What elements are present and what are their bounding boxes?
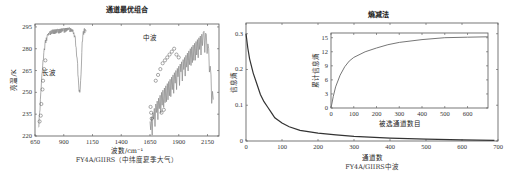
left-y-tick-label: 280 xyxy=(22,45,32,52)
left-y-tick-label: 235 xyxy=(22,110,32,117)
annotation-midwave: 中波 xyxy=(143,33,157,42)
left-y-tick-label: 220 xyxy=(22,132,32,139)
left-y-ticks: 220235250265280295 xyxy=(22,23,219,139)
left-caption: FY4A/GIIRS（中纬度夏季大气） xyxy=(76,155,179,164)
selected-channel-marker xyxy=(41,79,44,82)
inset-y-tick-label: 15 xyxy=(322,34,329,41)
selected-channel-marker xyxy=(173,47,176,50)
right-y-tick-label: 0.3 xyxy=(235,30,243,37)
selected-channel-marker xyxy=(154,79,157,82)
midwave-spectrum-line xyxy=(150,31,213,135)
left-plot-frame xyxy=(35,24,219,136)
inset-x-tick-label: 0 xyxy=(329,110,332,117)
selected-channel-marker xyxy=(159,67,162,70)
right-chart-title: 熵减法 xyxy=(367,10,389,19)
left-chart-title: 通道最优组合 xyxy=(106,5,149,14)
right-x-tick-label: 100 xyxy=(277,143,287,150)
left-x-tick-label: 1900 xyxy=(172,138,185,145)
inset-x-tick-label: 600 xyxy=(463,110,473,117)
inset-x-tick-label: 500 xyxy=(440,110,450,117)
right-x-tick-label: 700 xyxy=(493,143,503,150)
inset-x-tick-label: 100 xyxy=(349,110,359,117)
figure: 通道最优组合 65090011501400165019002150 220235… xyxy=(0,0,514,177)
right-y-tick-label: 0.2 xyxy=(235,65,243,72)
selected-channel-marker xyxy=(170,50,173,53)
inset-y-tick-label: 12 xyxy=(322,48,329,55)
selected-channel-marker xyxy=(168,53,171,56)
left-y-tick-label: 265 xyxy=(22,67,32,74)
right-y-axis-label: 信息熵 xyxy=(229,72,238,93)
right-y-tick-label: 0.1 xyxy=(235,101,243,108)
longwave-spectrum-line xyxy=(39,28,87,128)
left-x-tick-label: 2150 xyxy=(201,138,214,145)
selected-channel-marker xyxy=(162,108,165,111)
inset-y-tick-label: 9 xyxy=(325,62,328,69)
left-series-group xyxy=(38,28,213,136)
selected-channel-marker xyxy=(177,56,180,59)
left-x-tick-label: 900 xyxy=(59,138,69,145)
selected-channel-marker xyxy=(156,73,159,76)
left-x-tick-label: 650 xyxy=(30,138,40,145)
selected-channel-marker xyxy=(163,59,166,62)
right-x-axis-label: 通道数 xyxy=(362,153,383,162)
right-x-tick-label: 300 xyxy=(349,143,359,150)
inset-x-axis-label: 被选通道数目 xyxy=(379,119,421,128)
inset-frame xyxy=(331,33,488,108)
left-chart-optimal-channel-combination: 通道最优组合 65090011501400165019002150 220235… xyxy=(9,5,219,164)
selected-channel-marker xyxy=(166,56,169,59)
selected-channel-marker xyxy=(44,59,47,62)
left-x-tick-label: 1150 xyxy=(86,138,99,145)
right-x-tick-label: 600 xyxy=(457,143,467,150)
left-y-axis-label: 亮温/K xyxy=(9,69,18,90)
left-x-tick-label: 1400 xyxy=(115,138,128,145)
right-x-tick-label: 200 xyxy=(313,143,323,150)
selected-channel-marker xyxy=(149,105,152,108)
inset-cumulative-entropy: 0100200300400500600 03691215 累计信息熵 被选通道数… xyxy=(311,33,488,128)
annotation-longwave: 长波 xyxy=(42,68,56,77)
right-caption: FY4A/GIIRS中波 xyxy=(345,162,399,171)
right-x-tick-label: 500 xyxy=(421,143,431,150)
inset-x-tick-label: 300 xyxy=(394,110,404,117)
right-x-tick-label: 0 xyxy=(244,143,247,150)
left-y-tick-label: 250 xyxy=(22,88,32,95)
left-x-tick-label: 1650 xyxy=(144,138,157,145)
right-y-tick-label: 0 xyxy=(240,137,243,144)
selected-channel-marker xyxy=(175,53,178,56)
inset-x-tick-label: 200 xyxy=(372,110,382,117)
left-x-axis-label: 波数/cm⁻¹ xyxy=(111,146,143,155)
right-chart-entropy-reduction: 熵减法 0100200300400500600700 00.10.20.3 信息… xyxy=(229,10,503,171)
inset-y-tick-label: 0 xyxy=(325,104,328,111)
inset-x-tick-label: 400 xyxy=(417,110,427,117)
right-x-tick-label: 400 xyxy=(385,143,395,150)
left-y-tick-label: 295 xyxy=(22,23,32,30)
selected-channel-marker xyxy=(160,111,163,114)
inset-y-tick-label: 6 xyxy=(325,76,329,83)
left-x-ticks: 65090011501400165019002150 xyxy=(30,24,214,145)
selected-channel-marker xyxy=(38,120,41,123)
selected-channel-marker xyxy=(161,62,164,65)
inset-y-tick-label: 3 xyxy=(325,90,328,97)
inset-y-axis-label: 累计信息熵 xyxy=(311,53,320,88)
selected-channel-marker xyxy=(150,111,153,114)
